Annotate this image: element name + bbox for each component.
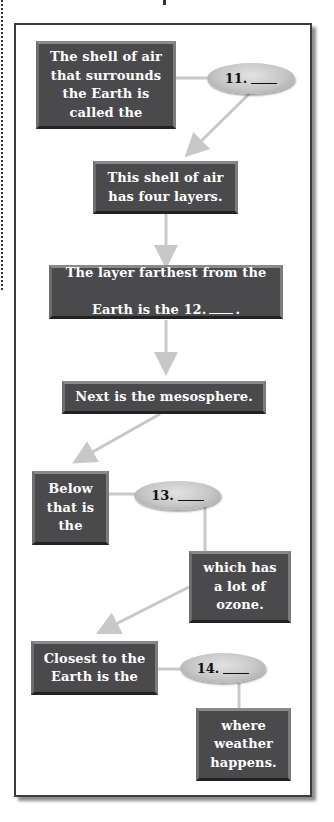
box-text: Next is the mesosphere. (75, 388, 253, 407)
arrow-connector (191, 93, 250, 151)
box-text: Closest to the Earth is the (44, 650, 146, 687)
arrow-connector (80, 414, 160, 459)
box-text-line2: Earth is the 12.. (92, 283, 240, 320)
answer-number: 11. (225, 71, 248, 86)
answer-blank-12[interactable] (209, 301, 233, 314)
flow-box-four-layers: This shell of air has four layers. (93, 161, 238, 214)
box-text-suffix: . (235, 302, 240, 317)
flow-box-below-that: Below that is the (32, 471, 109, 545)
box-text: which has a lot of ozone. (203, 559, 277, 615)
box-text-prefix: Earth is the 12. (92, 302, 206, 317)
answer-oval-14[interactable]: 14. (180, 653, 266, 683)
answer-number: 13. (151, 488, 174, 503)
answer-blank[interactable] (251, 73, 277, 84)
box-text: This shell of air has four layers. (107, 169, 223, 206)
flow-box-closest-layer: Closest to the Earth is the (31, 641, 158, 695)
box-text: The shell of air that surrounds the Eart… (50, 48, 162, 122)
answer-oval-11[interactable]: 11. (207, 63, 295, 94)
box-text: where weather happens. (210, 717, 276, 773)
flow-box-weather: where weather happens. (196, 708, 291, 781)
box-text-line1: The layer farthest from the (66, 264, 267, 283)
answer-number: 14. (197, 661, 220, 676)
box-text: Below that is the (47, 480, 94, 536)
flow-box-mesosphere: Next is the mesosphere. (62, 381, 266, 414)
arrow-connector (104, 587, 189, 630)
flow-box-farthest-layer: The layer farthest from the Earth is the… (49, 265, 283, 319)
flow-box-ozone: which has a lot of ozone. (189, 551, 291, 623)
answer-blank[interactable] (178, 490, 204, 501)
flow-box-atmosphere-definition: The shell of air that surrounds the Eart… (36, 41, 176, 129)
answer-oval-13[interactable]: 13. (134, 481, 221, 510)
answer-blank[interactable] (223, 663, 249, 674)
